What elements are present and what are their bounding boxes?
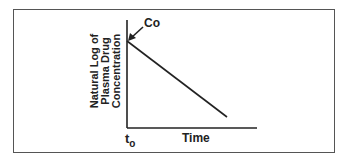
x-tick-t0: to: [125, 131, 135, 149]
y-axis-label-line-3: Concentration: [111, 34, 122, 109]
t0-subscript: o: [129, 138, 135, 149]
chart-plot: [0, 0, 347, 159]
arrow-icon: [128, 27, 143, 41]
y-axis-label: Natural Log of Plasma Drug Concentration: [85, 21, 125, 121]
x-axis-label: Time: [182, 131, 210, 145]
co-annotation: Co: [144, 16, 160, 30]
data-line: [127, 41, 227, 117]
